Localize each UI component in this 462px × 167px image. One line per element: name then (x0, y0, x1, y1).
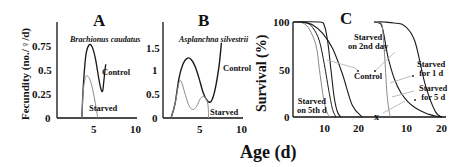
shared-xlabel: Age (d) (240, 143, 297, 161)
panel-c-annotation-leaders (327, 52, 414, 113)
panel-c-ytick: 0 (284, 112, 290, 123)
panel-c-xtick: 10 (319, 123, 330, 134)
panel-b-letter: B (198, 12, 209, 29)
panel-c-ytick: 100 (273, 17, 290, 28)
panel-c-ytick: 50 (279, 65, 290, 76)
panel-b-ytick: 0 (152, 113, 158, 124)
annotation-line: on 2nd day (348, 42, 388, 51)
panel-a-species-title: Brachionus caudatus (70, 36, 140, 44)
panel-a-starved-label: Starved (89, 104, 117, 113)
panel-a-ytick: 0.75 (32, 41, 51, 52)
panel-c-xtick: 20 (353, 123, 364, 134)
panel-a-ytick: 0.25 (32, 89, 51, 100)
panel-b-ytick: 0.5 (146, 89, 160, 100)
panel-b-ytick: 1.5 (146, 43, 160, 54)
panel-b-ytick: 1 (152, 65, 158, 76)
panel-a-xtick: 5 (91, 124, 97, 135)
panel-c-annotation-starved-for-5d: Starved for 5 d (419, 84, 447, 102)
panel-a-ylabel: Fecundity (no./♀/d) (20, 28, 31, 120)
panel-c-annotation-control: Control (354, 72, 382, 81)
panel-a-xtick: 10 (130, 124, 141, 135)
panel-b-species-title: Asplanchna silvestrii (179, 36, 248, 44)
panel-c-annotation-starved-2nd-day: Starved on 2nd day (348, 33, 388, 51)
annotation-line: for 5 d (419, 93, 447, 102)
panel-b-control-label: Control (223, 64, 251, 73)
panel-a-letter: A (93, 12, 105, 29)
panel-b-xtick: 5 (197, 124, 203, 135)
panel-c-xtick: 20 (436, 123, 447, 134)
panel-c-letter: C (340, 10, 352, 27)
panel-b-starved-line (171, 80, 209, 118)
panel-c-annotation-starved-5th-d: Starved on 5th d (297, 97, 327, 115)
panel-c-annotation-starved-for-1d: Starved for 1 d (417, 60, 445, 78)
panel-a-ytick: 0.5 (38, 65, 52, 76)
panel-a-ytick: 0 (45, 113, 51, 124)
axis-break-mark: x (374, 112, 379, 122)
panel-c-ylabel: Survival (%) (255, 35, 269, 112)
panel-a-control-label: Control (102, 68, 130, 77)
panel-b-xtick: 10 (236, 124, 247, 135)
figure-canvas (0, 0, 462, 167)
panel-c-xtick: 10 (401, 123, 412, 134)
panel-b-starved-label: Starved (210, 108, 238, 117)
annotation-line: on 5th d (297, 106, 327, 115)
annotation-line: for 1 d (417, 69, 445, 78)
